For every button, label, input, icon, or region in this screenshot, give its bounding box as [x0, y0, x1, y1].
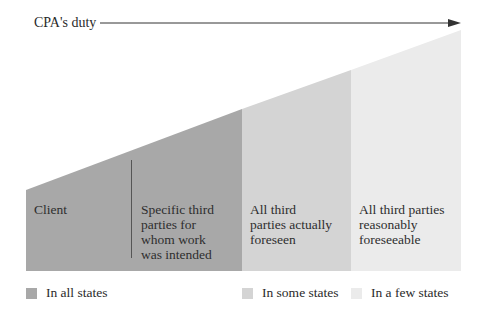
- legend-label: In all states: [46, 285, 107, 301]
- arrow-head-icon: [448, 19, 461, 27]
- column-actually-foreseen: All third parties actually foreseen: [250, 202, 332, 247]
- legend-item-few-states: In a few states: [351, 285, 449, 301]
- duty-diagram: [0, 0, 479, 314]
- legend-swatch-icon: [242, 288, 253, 299]
- column-client: Client: [34, 202, 67, 217]
- legend-swatch-icon: [351, 288, 362, 299]
- legend-label: In some states: [262, 285, 339, 301]
- column-reasonably-foreseeable: All third parties reasonably foreseeable: [359, 202, 444, 247]
- legend-item-all-states: In all states: [26, 285, 107, 301]
- column-specific-third-parties: Specific third parties for whom work was…: [141, 202, 214, 262]
- legend-label: In a few states: [371, 285, 449, 301]
- legend-swatch-icon: [26, 288, 37, 299]
- legend-item-some-states: In some states: [242, 285, 339, 301]
